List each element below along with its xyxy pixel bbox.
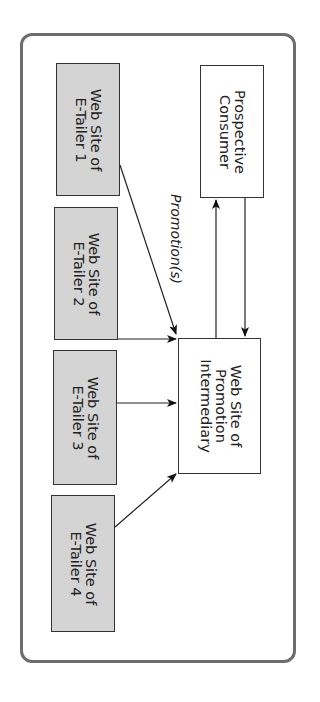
etailer-3-line1: Web Site of	[85, 376, 100, 459]
intermediary-label-line1: Web Site of	[227, 359, 242, 453]
intermediary-node: Web Site of Promotion Intermediary	[178, 338, 261, 474]
etailer-3-node: Web Site of E-Tailer 3	[53, 350, 117, 485]
consumer-node: Prospective Consumer	[200, 65, 264, 198]
etailer-2-line2: E-Tailer 2	[71, 232, 86, 315]
promotions-edge-label: Promotion(s)	[174, 238, 175, 239]
etailer-4-node: Web Site of E-Tailer 4	[51, 495, 115, 632]
consumer-label-line1: Prospective	[232, 90, 247, 174]
promotions-label-text: Promotion(s)	[167, 193, 182, 283]
etailer-1-line2: E-Tailer 1	[73, 88, 88, 171]
etailer-4-line2: E-Tailer 4	[68, 522, 83, 605]
consumer-label-line2: Consumer	[217, 90, 232, 174]
intermediary-label-line2: Promotion	[212, 359, 227, 453]
etailer-2-node: Web Site of E-Tailer 2	[54, 207, 118, 340]
etailer-2-line1: Web Site of	[86, 232, 101, 315]
arrow-etailer4-to-intermediary	[115, 474, 176, 527]
etailer-1-node: Web Site of E-Tailer 1	[56, 63, 120, 196]
etailer-1-line1: Web Site of	[88, 88, 103, 171]
intermediary-label-line3: Intermediary	[197, 359, 212, 453]
etailer-4-line1: Web Site of	[83, 522, 98, 605]
etailer-3-line2: E-Tailer 3	[70, 376, 85, 459]
